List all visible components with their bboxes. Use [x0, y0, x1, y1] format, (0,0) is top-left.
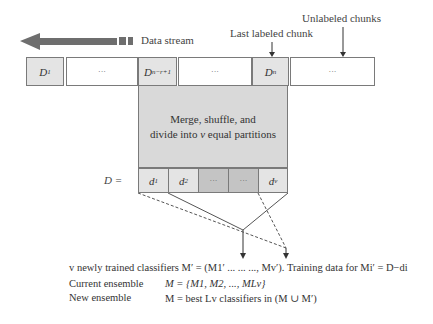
- caption-new-classifiers: v newly trained classifiers M′ = (M1′ ..…: [69, 262, 408, 273]
- caption-current-ensemble-value: M = {M1, M2, ..., MLv}: [165, 278, 265, 289]
- data-stream-label: Data stream: [141, 34, 194, 46]
- partition-ellipsis: ···: [198, 168, 229, 193]
- caption-new-ensemble-value: M = best Lv classifiers in (M ∪ M′): [165, 292, 317, 304]
- process-text-line2: divide into v equal partitions: [150, 127, 276, 142]
- partition-d2: d2: [168, 168, 199, 193]
- data-stream-arrow-icon: [20, 33, 117, 50]
- merge-shuffle-block: Merge, shuffle, and divide into v equal …: [138, 86, 288, 168]
- partition-d1: d1: [138, 168, 169, 193]
- caption-current-ensemble-label: Current ensemble: [69, 278, 143, 289]
- last-labeled-chunk-label: Last labeled chunk: [230, 27, 313, 39]
- chunk-dn: Dn: [252, 57, 289, 86]
- partition-dv: dv: [258, 168, 288, 193]
- chunk-d1: D1: [26, 57, 64, 86]
- chunk-ellipsis: ···: [178, 57, 252, 86]
- partition-ellipsis: ···: [228, 168, 259, 193]
- stream-block-icon: [128, 37, 133, 45]
- partition-d-label: D =: [104, 174, 122, 186]
- caption-new-ensemble-label: New ensemble: [69, 292, 131, 303]
- arrow-down-icon: [283, 253, 289, 259]
- unlabeled-chunks-label: Unlabeled chunks: [302, 12, 381, 24]
- chunk-unlabeled-ellipsis: ···: [290, 57, 375, 86]
- process-text-line1: Merge, shuffle, and: [150, 112, 276, 127]
- chunk-dn-r-plus-1: Dn−r+1: [138, 57, 177, 86]
- arrow-down-icon: [240, 253, 246, 259]
- stream-block-icon: [119, 37, 126, 45]
- chunk-ellipsis: ···: [66, 57, 138, 86]
